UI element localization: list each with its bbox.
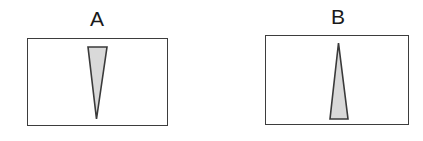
figure-container: A B — [0, 0, 423, 141]
triangle-pointing-up-shape — [330, 43, 348, 119]
triangle-pointing-down-shape — [88, 47, 107, 119]
panel-b-shape-canvas — [265, 35, 409, 125]
panel-a-label: A — [77, 8, 117, 29]
panel-a-shape-canvas — [27, 38, 168, 126]
panel-b-label: B — [318, 6, 358, 27]
